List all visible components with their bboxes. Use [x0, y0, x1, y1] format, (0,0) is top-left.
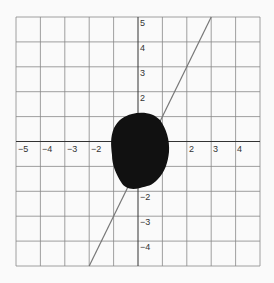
- svg-text:−3: −3: [67, 144, 77, 154]
- svg-text:−3: −3: [140, 217, 150, 227]
- svg-text:−5: −5: [18, 144, 28, 154]
- svg-text:3: 3: [140, 68, 145, 78]
- svg-text:−2: −2: [140, 192, 150, 202]
- svg-text:−2: −2: [91, 144, 101, 154]
- svg-text:4: 4: [237, 144, 242, 154]
- svg-text:2: 2: [189, 144, 194, 154]
- svg-text:5: 5: [140, 18, 145, 28]
- ink-blot: [111, 113, 169, 189]
- svg-text:3: 3: [213, 144, 218, 154]
- svg-text:4: 4: [140, 43, 145, 53]
- svg-text:2: 2: [140, 93, 145, 103]
- svg-text:−4: −4: [42, 144, 52, 154]
- coordinate-plane: −5 −4 −3 −2 2 3 4 5 4 3 2 −2 −3 −4: [0, 0, 274, 283]
- svg-text:−4: −4: [140, 242, 150, 252]
